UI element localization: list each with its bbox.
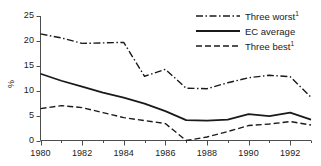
series-line-three-best xyxy=(41,106,312,141)
y-tick-label: 25 xyxy=(8,10,34,20)
x-tick-label: 1990 xyxy=(237,148,261,158)
legend-item-label: Three worst1 xyxy=(245,11,299,22)
legend-item-three-best[interactable]: Three best1 xyxy=(196,39,318,53)
legend-line-swatch xyxy=(196,26,240,36)
legend-footnote-marker: 1 xyxy=(295,9,299,16)
y-axis-title: % xyxy=(6,80,16,88)
x-tick-label: 1984 xyxy=(112,148,136,158)
legend-item-label: EC average xyxy=(245,26,295,37)
x-tick-label: 1982 xyxy=(70,148,94,158)
chart-figure: 0510152025 1980198219841986198819901992 … xyxy=(0,0,321,166)
legend-item-ec-average[interactable]: EC average xyxy=(196,24,318,38)
x-axis-ticks xyxy=(42,141,312,146)
legend-footnote-marker: 1 xyxy=(290,39,294,46)
x-tick-label: 1988 xyxy=(195,148,219,158)
y-axis-ticks xyxy=(37,17,41,142)
x-tick-label: 1980 xyxy=(29,148,53,158)
series-line-ec-average xyxy=(41,74,312,121)
y-tick-label: 20 xyxy=(8,35,34,45)
x-tick-label: 1992 xyxy=(278,148,302,158)
chart-legend: Three worst1EC averageThree best1 xyxy=(196,9,318,54)
y-tick-label: 15 xyxy=(8,60,34,70)
legend-item-label: Three best1 xyxy=(245,41,294,52)
x-tick-label: 1986 xyxy=(153,148,177,158)
legend-line-swatch xyxy=(196,41,240,51)
y-tick-label: 0 xyxy=(8,135,34,145)
legend-item-three-worst[interactable]: Three worst1 xyxy=(196,9,318,23)
legend-line-swatch xyxy=(196,11,240,21)
y-tick-label: 5 xyxy=(8,110,34,120)
